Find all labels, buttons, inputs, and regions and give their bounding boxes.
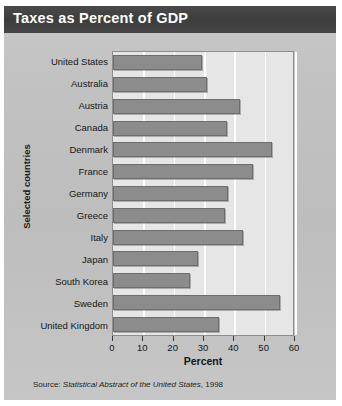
x-tick-label: 40 [228,342,239,353]
category-label: Japan [22,252,108,267]
bar [113,77,207,92]
bar-row [113,273,293,288]
bar-row [113,251,293,266]
category-label: Italy [22,230,108,245]
category-label: Austria [22,98,108,113]
bar-row [113,208,293,223]
bar-row [113,230,293,245]
category-label-list: United StatesAustraliaAustriaCanadaDenma… [22,51,108,336]
bar [113,208,225,223]
plot-area [112,51,294,336]
x-axis-tick-labels: 0102030405060 [112,342,294,355]
source-title: Statistical Abstract of the United State… [63,380,201,389]
bar-row [113,164,293,179]
x-tick-10 [142,336,143,341]
bar [113,164,253,179]
source-year: , 1998 [201,380,223,389]
category-label: Germany [22,186,108,201]
bar-row [113,55,293,70]
bar [113,317,219,332]
category-label: South Korea [22,274,108,289]
x-axis [112,336,294,341]
category-label: Sweden [22,296,108,311]
source-prefix: Source: [33,380,61,389]
x-tick-50 [264,336,265,341]
bar-row [113,295,293,310]
bar-series [113,52,293,335]
bar [113,230,243,245]
x-tick-label: 10 [137,342,148,353]
category-label: France [22,164,108,179]
bar [113,55,202,70]
x-tick-label: 0 [109,342,114,353]
chart-header-bar: Taxes as Percent of GDP [4,6,336,33]
category-label: Denmark [22,142,108,157]
category-label: Greece [22,208,108,223]
category-label: Canada [22,120,108,135]
bar-row [113,99,293,114]
chart-title: Taxes as Percent of GDP [13,10,188,26]
bar-row [113,186,293,201]
bar [113,142,272,157]
x-axis-label: Percent [112,355,294,367]
bar-row [113,317,293,332]
x-tick-30 [203,336,204,341]
chart-figure: Taxes as Percent of GDP Selected countri… [4,6,336,400]
bar [113,273,190,288]
x-tick-60 [294,336,295,341]
bar [113,186,228,201]
x-tick-label: 50 [258,342,269,353]
bar [113,295,280,310]
category-label: United States [22,54,108,69]
bar [113,99,240,114]
x-tick-0 [112,336,113,341]
bar-row [113,121,293,136]
category-label: Australia [22,76,108,91]
x-tick-label: 30 [198,342,209,353]
gridline-60 [295,52,297,335]
bar-row [113,77,293,92]
x-tick-20 [173,336,174,341]
x-tick-label: 20 [167,342,178,353]
x-tick-label: 60 [289,342,300,353]
bar [113,121,227,136]
x-tick-40 [233,336,234,341]
source-note: Source: Statistical Abstract of the Unit… [33,380,223,389]
bar [113,251,198,266]
bar-row [113,142,293,157]
category-label: United Kingdom [22,318,108,333]
